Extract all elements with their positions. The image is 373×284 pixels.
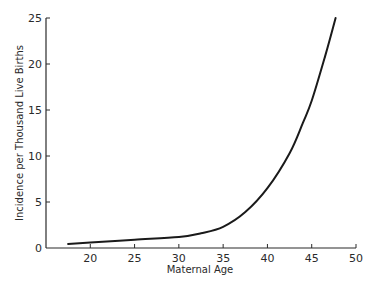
x-axis-ticks: 20253035404550	[83, 244, 363, 265]
y-axis-ticks: 0510152025	[28, 12, 50, 255]
x-axis-label: Maternal Age	[167, 264, 234, 275]
incidence-curve	[68, 18, 336, 244]
y-tick-label: 10	[28, 150, 42, 163]
x-tick-label: 45	[305, 252, 319, 265]
x-tick-label: 20	[83, 252, 97, 265]
x-tick-label: 40	[260, 252, 274, 265]
y-tick-label: 0	[35, 242, 42, 255]
line-chart: 0510152025 20253035404550 Maternal Age I…	[0, 0, 373, 284]
y-tick-label: 25	[28, 12, 42, 25]
y-tick-label: 5	[35, 196, 42, 209]
axes	[46, 18, 356, 248]
y-axis-label: Incidence per Thousand Live Births	[14, 45, 25, 221]
x-tick-label: 50	[349, 252, 363, 265]
y-tick-label: 20	[28, 58, 42, 71]
y-tick-label: 15	[28, 104, 42, 117]
x-tick-label: 25	[128, 252, 142, 265]
